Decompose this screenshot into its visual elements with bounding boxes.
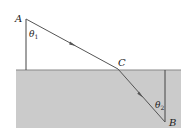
label-theta1: θ1 bbox=[29, 29, 38, 40]
arrow-icon bbox=[69, 42, 76, 47]
label-a: A bbox=[14, 13, 22, 24]
label-c: C bbox=[118, 57, 126, 68]
refraction-diagram: A θ1 C θ2 B bbox=[0, 0, 184, 131]
label-b: B bbox=[168, 117, 176, 128]
lower-medium bbox=[16, 70, 181, 128]
